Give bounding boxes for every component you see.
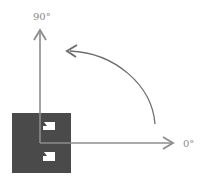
rotation-diagram: 90° 0° <box>0 0 203 182</box>
label-90-degrees: 90° <box>33 11 51 22</box>
rotation-arc <box>70 51 155 124</box>
label-0-degrees: 0° <box>183 138 194 149</box>
